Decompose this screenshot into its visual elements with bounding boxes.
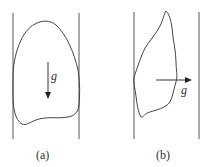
figure-canvas: g (a) g (b) xyxy=(0,0,205,167)
arrowhead-down-icon xyxy=(45,92,51,99)
bubble-a xyxy=(13,21,80,124)
panel-b: g (b) xyxy=(134,11,199,162)
caption-a: (a) xyxy=(36,148,49,162)
bubble-b xyxy=(134,11,177,117)
panel-a: g (a) xyxy=(13,13,80,162)
gravity-label-b: g xyxy=(181,83,187,97)
gravity-label-a: g xyxy=(51,69,57,83)
caption-b: (b) xyxy=(156,148,170,162)
